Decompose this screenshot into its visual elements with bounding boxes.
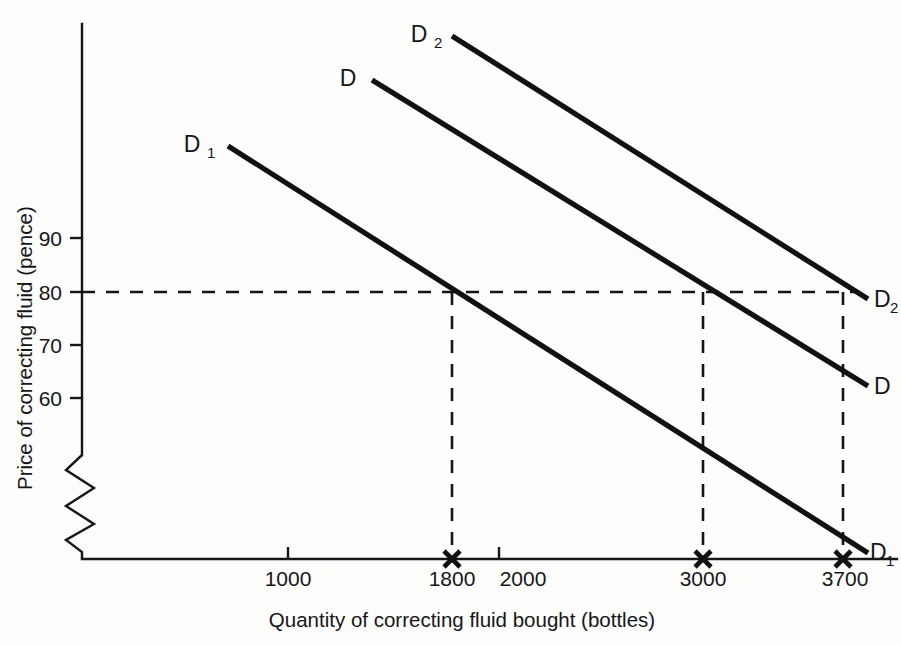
y-tick-label-60: 60	[39, 387, 62, 410]
y-tick-label-90: 90	[39, 227, 62, 250]
x-tick-label-1800: 1800	[429, 567, 476, 590]
x-tick-labels: 1000 1800 2000 3000 3700	[265, 567, 869, 590]
y-tick-label-80: 80	[39, 281, 62, 304]
curve-label-left-D1-letter: D	[184, 131, 201, 157]
curve-labels-left-group: D 1 D D 2	[184, 21, 443, 161]
y-tick-labels: 90 80 70 60	[39, 227, 62, 410]
curve-label-left-D2-letter: D	[411, 21, 428, 47]
curve-label-right-D-letter: D	[874, 373, 891, 399]
demand-curve-chart: 90 80 70 60 1000 1800 2000 3000 3700	[0, 0, 901, 645]
curve-label-right-D1-letter: D	[870, 539, 887, 565]
curve-label-right-D2-letter: D	[874, 286, 891, 312]
demand-curve-D	[372, 80, 868, 386]
curve-label-left-D-letter: D	[340, 65, 357, 91]
curve-label-left-D1-subscript: 1	[207, 144, 215, 161]
curve-label-right-D2-subscript: 2	[890, 299, 898, 316]
y-axis-break-icon	[66, 455, 94, 559]
x-tick-label-2000: 2000	[500, 567, 547, 590]
demand-curves-group	[228, 36, 868, 553]
x-tick-group	[288, 547, 499, 559]
curve-label-right-D1-subscript: 1	[886, 552, 894, 569]
x-tick-label-1000: 1000	[265, 567, 312, 590]
y-tick-group	[70, 238, 82, 398]
y-axis-title: Price of correcting fluid (pence)	[13, 206, 36, 490]
curve-label-right-D1: D 1	[870, 539, 894, 569]
curve-label-left-D: D	[340, 65, 357, 91]
curve-label-left-D1: D 1	[184, 131, 216, 161]
curve-label-left-D2-subscript: 2	[434, 34, 442, 51]
chart-canvas: 90 80 70 60 1000 1800 2000 3000 3700	[0, 0, 901, 645]
curve-label-right-D2: D 2	[874, 286, 898, 316]
curve-label-left-D2: D 2	[411, 21, 443, 51]
x-tick-label-3700: 3700	[822, 567, 869, 590]
guide-lines-group	[82, 292, 860, 559]
y-tick-label-70: 70	[39, 334, 62, 357]
demand-curve-D1	[228, 146, 868, 553]
curve-label-right-D: D	[874, 373, 891, 399]
x-axis-title: Quantity of correcting fluid bought (bot…	[269, 608, 655, 631]
curve-labels-right-group: D 2 D D 1	[870, 286, 898, 569]
x-tick-label-3000: 3000	[680, 567, 727, 590]
